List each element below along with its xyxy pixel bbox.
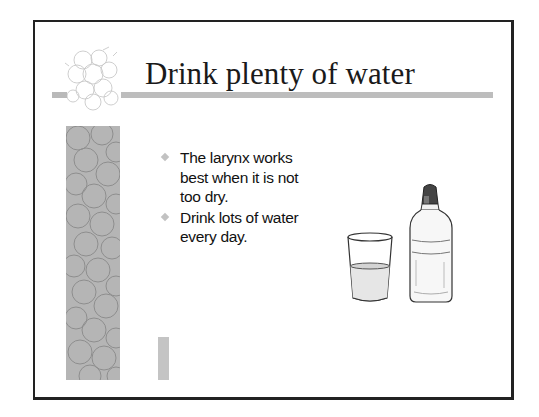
title-underline-bar xyxy=(121,92,493,98)
bullet-text: Drink lots of water every day. xyxy=(180,209,298,246)
bullet-list: The larynx works best when it is not too… xyxy=(160,148,320,248)
slide-title: Drink plenty of water xyxy=(145,56,415,92)
bullet-item: Drink lots of water every day. xyxy=(160,208,320,247)
bubbles-logo-icon xyxy=(63,46,121,112)
water-illustration xyxy=(344,182,460,306)
decorative-small-bar xyxy=(158,337,169,380)
diamond-bullet-icon xyxy=(161,153,169,161)
glass-of-water-icon xyxy=(348,233,392,301)
diamond-bullet-icon xyxy=(161,212,169,220)
bubble-pattern-icon xyxy=(66,126,120,380)
bullet-item: The larynx works best when it is not too… xyxy=(160,148,320,207)
water-bottle-icon xyxy=(410,185,452,303)
bullet-text: The larynx works best when it is not too… xyxy=(180,149,298,205)
decorative-bubble-strip xyxy=(66,126,120,380)
title-underline-stub xyxy=(52,92,67,98)
